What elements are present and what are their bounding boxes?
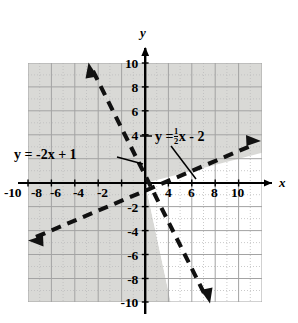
y-tick-label-minus4: -4: [104, 224, 138, 240]
y-axis-label: y: [140, 26, 146, 39]
equation-label-steep-line: y = -2x + 1: [14, 148, 77, 162]
x-tick-label-minus6: -6: [50, 186, 61, 200]
shallow-equation-tail: x - 2: [179, 129, 205, 144]
coordinate-graph-figure: x y -10 -8 -6 -4 -2 4 6 8 10 10 8 6 4 -2…: [0, 0, 298, 323]
x-tick-label-6: 6: [188, 186, 195, 200]
x-tick-label-8: 8: [211, 186, 218, 200]
y-axis-arrow: [141, 47, 149, 56]
y-tick-label-minus6: -6: [104, 248, 138, 264]
fraction-numerator: 1: [174, 127, 178, 136]
x-tick-label-minus2: -2: [97, 186, 108, 200]
y-tick-label-minus2: -2: [104, 200, 138, 216]
x-axis-arrow: [264, 179, 272, 186]
x-tick-label-minus8: -8: [31, 186, 42, 200]
x-tick-label-4: 4: [165, 186, 172, 200]
y-tick-label-8: 8: [110, 80, 138, 96]
one-half-fraction: 12: [174, 127, 178, 145]
y-tick-label-10: 10: [110, 56, 138, 72]
x-axis-label: x: [279, 176, 286, 189]
fraction-denominator: 2: [174, 136, 178, 146]
shallow-equation-lead: y =: [155, 129, 173, 144]
x-tick-label-minus4: -4: [73, 186, 84, 200]
x-tick-label-10: 10: [231, 186, 244, 200]
equation-label-shallow-line: y =12x - 2: [155, 127, 204, 145]
y-tick-label-minus10: -10: [101, 295, 138, 311]
y-tick-label-4: 4: [110, 128, 138, 144]
y-tick-label-6: 6: [110, 104, 138, 120]
y-tick-label-minus8: -8: [104, 272, 138, 288]
x-tick-label-minus10: -10: [4, 186, 21, 200]
